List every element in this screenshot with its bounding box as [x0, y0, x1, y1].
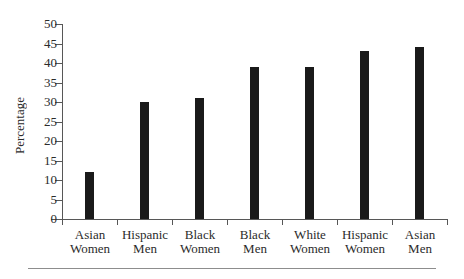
- x-axis-tick: [447, 219, 448, 225]
- bar: [250, 67, 259, 219]
- x-axis-line: [51, 219, 447, 220]
- bar: [305, 67, 314, 219]
- y-axis-tick-label: 40: [44, 55, 62, 70]
- bar: [140, 102, 149, 219]
- x-axis-category-label-line: Asian: [382, 228, 458, 242]
- x-axis-tick: [227, 219, 228, 225]
- y-axis-tick-label: 25: [44, 114, 62, 129]
- x-axis-tick: [117, 219, 118, 225]
- y-axis-tick-label: 30: [44, 94, 62, 109]
- y-axis-title: Percentage: [12, 75, 28, 175]
- y-axis-tick-label: 10: [44, 172, 62, 187]
- bar: [195, 98, 204, 219]
- x-axis-tick: [172, 219, 173, 225]
- x-axis-tick: [282, 219, 283, 225]
- bar-chart-figure: Percentage 05101520253035404550 AsianWom…: [0, 0, 464, 279]
- x-axis-category-label-line: Men: [382, 242, 458, 256]
- y-axis-tick-label: 0: [51, 211, 63, 226]
- x-axis-tick: [62, 219, 63, 225]
- y-axis-tick-label: 35: [44, 75, 62, 90]
- y-axis-line: [62, 24, 63, 220]
- x-axis-tick: [337, 219, 338, 225]
- y-axis-tick-label: 50: [44, 16, 62, 31]
- y-axis-tick-label: 15: [44, 153, 62, 168]
- y-axis-tick-label: 20: [44, 133, 62, 148]
- bar: [360, 51, 369, 219]
- y-axis-tick-label: 45: [44, 36, 62, 51]
- y-axis-tick-label: 5: [51, 192, 63, 207]
- bar: [415, 47, 424, 219]
- x-axis-tick: [392, 219, 393, 225]
- bottom-rule: [28, 268, 436, 269]
- x-axis-category-label: AsianMen: [382, 228, 458, 256]
- bar: [85, 172, 94, 219]
